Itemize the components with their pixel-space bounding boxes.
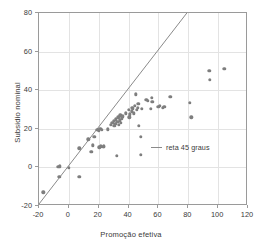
x-axis-tick <box>157 205 158 208</box>
scatter-point <box>139 135 142 138</box>
scatter-point <box>222 67 225 70</box>
y-axis-tick-label: -20 <box>0 201 32 210</box>
scatter-point <box>163 105 166 108</box>
legend-entry-label: reta 45 graus <box>166 143 210 152</box>
scatter-point <box>146 99 149 102</box>
x-axis-tick <box>187 205 188 208</box>
scatter-point <box>188 101 191 104</box>
gridline-horizontal <box>39 129 246 130</box>
y-axis-title: Subsídio nominal <box>13 58 22 168</box>
gridline-horizontal <box>39 90 246 91</box>
scatter-point <box>42 191 45 194</box>
scatter-point <box>137 124 140 127</box>
scatter-chart-figure: reta 45 graus -20020406080100120 -200204… <box>0 0 262 248</box>
plot-area: reta 45 graus <box>38 12 247 205</box>
scatter-point <box>169 95 172 98</box>
gridline-vertical <box>158 13 159 204</box>
y-axis-tick <box>35 12 38 13</box>
y-axis-tick <box>35 128 38 129</box>
gridline-vertical <box>218 13 219 204</box>
scatter-point <box>208 78 211 81</box>
x-axis-tick <box>38 205 39 208</box>
scatter-point <box>78 147 81 150</box>
y-axis-tick <box>35 166 38 167</box>
x-axis-tick-label: 80 <box>183 210 191 219</box>
scatter-point <box>78 175 81 178</box>
x-axis-tick <box>128 205 129 208</box>
x-axis-tick-label: 40 <box>123 210 131 219</box>
x-axis-tick <box>247 205 248 208</box>
scatter-point <box>102 144 105 147</box>
x-axis-tick <box>68 205 69 208</box>
scatter-point <box>136 106 139 109</box>
y-axis-tick <box>35 51 38 52</box>
scatter-point <box>115 154 118 157</box>
y-axis-tick <box>35 205 38 206</box>
gridline-vertical <box>69 13 70 204</box>
gridline-vertical <box>99 13 100 204</box>
y-axis-tick <box>35 89 38 90</box>
scatter-point <box>132 112 135 115</box>
scatter-point <box>93 135 96 138</box>
scatter-point <box>190 116 193 119</box>
scatter-point <box>140 107 143 110</box>
x-axis-tick-label: 60 <box>153 210 161 219</box>
scatter-point <box>149 107 152 110</box>
scatter-point <box>151 100 154 103</box>
gridline-vertical <box>188 13 189 204</box>
scatter-point <box>106 127 109 130</box>
scatter-point <box>87 138 90 141</box>
x-axis-tick <box>217 205 218 208</box>
scatter-point <box>119 121 122 124</box>
chart-legend: reta 45 graus <box>151 143 210 152</box>
scatter-point <box>121 115 124 118</box>
y-axis-tick-label: 60 <box>0 46 32 55</box>
x-axis-tick-label: 100 <box>211 210 223 219</box>
scatter-point <box>139 153 142 156</box>
scatter-point <box>90 150 93 153</box>
gridline-horizontal <box>39 52 246 53</box>
y-axis-tick-label: 80 <box>0 8 32 17</box>
x-axis-tick-label: 0 <box>66 210 70 219</box>
x-axis-tick-label: 20 <box>94 210 102 219</box>
scatter-point <box>91 144 94 147</box>
legend-line-marker-icon <box>151 147 162 148</box>
scatter-point <box>128 116 131 119</box>
cropped-caption-strip <box>46 0 216 7</box>
x-axis-tick-label: 120 <box>241 210 253 219</box>
scatter-point <box>100 128 103 131</box>
scatter-point <box>137 102 140 105</box>
scatter-point <box>134 93 137 96</box>
scatter-point <box>67 166 70 169</box>
x-axis-tick <box>98 205 99 208</box>
x-axis-tick-label: -20 <box>33 210 44 219</box>
scatter-point <box>57 175 60 178</box>
x-axis-title: Promoção efetiva <box>0 230 262 239</box>
scatter-point <box>207 69 210 72</box>
scatter-point <box>124 112 127 115</box>
